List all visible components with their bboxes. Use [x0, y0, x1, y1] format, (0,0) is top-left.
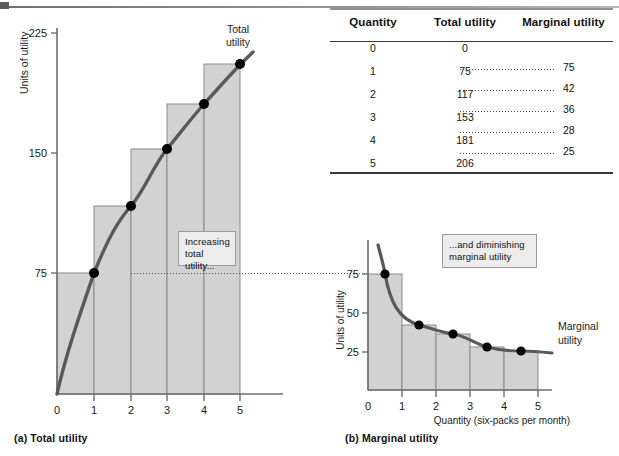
- utility-table: Quantity Total utility Marginal utility …: [330, 8, 613, 174]
- figure-root: 225 150 75 0 1 2 3 4 5 Units of utility …: [0, 0, 619, 456]
- callout-increasing-total-utility: Increasing total utility...: [178, 231, 236, 266]
- cell-quantity: 1: [330, 59, 416, 82]
- chart-b-ylabel: Units of utility: [335, 290, 346, 349]
- chart-a-xtick-0: 0: [54, 404, 60, 416]
- table-row: 1 75: [330, 59, 613, 82]
- chart-b-curve-label-line2: utility: [558, 334, 583, 346]
- table-row: 2 117: [330, 82, 613, 105]
- chart-b-xtick-5: 5: [535, 400, 541, 412]
- cell-total-utility: 75: [416, 59, 514, 82]
- callout-increasing-line1: Increasing: [185, 236, 230, 248]
- cell-marginal-spacer: [514, 59, 613, 82]
- cell-total-utility: 181: [416, 128, 514, 151]
- chart-a-xtick-2: 2: [128, 404, 134, 416]
- table-top-rule: [330, 8, 613, 10]
- cell-quantity: 0: [330, 36, 416, 59]
- cell-quantity: 2: [330, 82, 416, 105]
- cell-total-utility: 117: [416, 82, 514, 105]
- cell-quantity: 3: [330, 105, 416, 128]
- cell-total-utility: 206: [416, 151, 514, 174]
- utility-table-grid: Quantity Total utility Marginal utility …: [330, 16, 613, 174]
- cell-marginal-spacer: [514, 151, 613, 174]
- table-row: 0 0: [330, 36, 613, 59]
- chart-a-xlabel: Quantity (six-packs per month): [147, 419, 283, 420]
- chart-a-xtick-1: 1: [91, 404, 97, 416]
- table-header-marginal-utility: Marginal utility: [514, 16, 613, 36]
- callout-diminishing-line1: ...and diminishing: [449, 239, 531, 251]
- chart-b-xtick-4: 4: [501, 400, 507, 412]
- chart-b-xtick-3: 3: [467, 400, 473, 412]
- cell-marginal-spacer: [514, 105, 613, 128]
- chart-b-xtick-1: 1: [399, 400, 405, 412]
- top-divider-cap: [0, 2, 9, 9]
- chart-a-ylabel: Units of utility: [18, 31, 30, 94]
- chart-a-xtick-5: 5: [237, 404, 243, 416]
- chart-b-curve-label-line1: Marginal: [558, 320, 598, 332]
- callout-diminishing-marginal-utility: ...and diminishing marginal utility: [442, 234, 537, 268]
- table-header-quantity: Quantity: [330, 16, 416, 36]
- chart-a-ytick-225: 225: [29, 27, 47, 39]
- chart-b-ytick-25: 25: [347, 346, 359, 358]
- panel-a-caption: (a) Total utility: [14, 432, 88, 444]
- cell-marginal-spacer: [514, 82, 613, 105]
- table-row: 3 153: [330, 105, 613, 128]
- chart-b-xtick-2: 2: [433, 400, 439, 412]
- chart-b-ytick-50: 50: [347, 307, 359, 319]
- cell-total-utility: 153: [416, 105, 514, 128]
- table-header-total-utility: Total utility: [416, 16, 514, 36]
- chart-total-utility: 225 150 75 0 1 2 3 4 5 Units of utility …: [0, 14, 310, 420]
- chart-b-xlabel: Quantity (six-packs per month): [434, 415, 570, 426]
- panel-b-caption: (b) Marginal utility: [345, 432, 438, 444]
- chart-a-xtick-3: 3: [164, 404, 170, 416]
- cell-marginal-spacer: [514, 36, 613, 59]
- callout-increasing-line2: total utility...: [185, 248, 230, 272]
- cell-quantity: 4: [330, 128, 416, 151]
- chart-a-curve-label-line2: utility: [226, 36, 251, 48]
- chart-a-ytick-75: 75: [35, 267, 47, 279]
- chart-b-ytick-75: 75: [347, 268, 359, 280]
- table-row: 5 206: [330, 151, 613, 174]
- chart-a-ytick-150: 150: [29, 147, 47, 159]
- cell-total-utility: 0: [416, 36, 514, 59]
- callout-diminishing-line2: marginal utility: [449, 251, 531, 263]
- table-row: 4 181: [330, 128, 613, 151]
- table-header-row: Quantity Total utility Marginal utility: [330, 16, 613, 36]
- total-utility-bars: [57, 64, 240, 394]
- chart-a-curve-label-line1: Total: [227, 23, 249, 35]
- chart-a-xtick-4: 4: [201, 404, 207, 416]
- chart-b-xtick-0: 0: [365, 400, 371, 412]
- cell-quantity: 5: [330, 151, 416, 174]
- cell-marginal-spacer: [514, 128, 613, 151]
